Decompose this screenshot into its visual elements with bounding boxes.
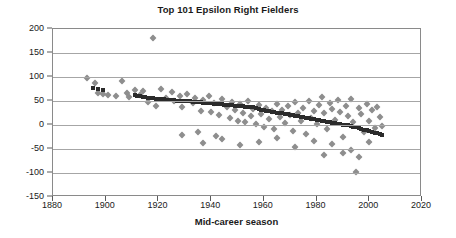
data-point-observed xyxy=(366,117,373,124)
y-axis-tick-label: 100 xyxy=(29,71,44,81)
data-point-observed xyxy=(205,92,212,99)
data-point-observed xyxy=(321,110,328,117)
data-point-observed xyxy=(358,110,365,117)
data-point-observed xyxy=(310,107,317,114)
data-point-observed xyxy=(289,127,296,134)
data-point-observed xyxy=(226,115,233,122)
gridline-y xyxy=(53,173,420,174)
plot-area xyxy=(52,28,421,196)
data-point-observed xyxy=(150,34,157,41)
x-axis-tick xyxy=(316,196,317,201)
x-axis-tick xyxy=(368,196,369,201)
x-axis-tick-label: 1920 xyxy=(147,200,167,210)
x-axis-tick-label: 2000 xyxy=(358,200,378,210)
data-point-observed xyxy=(273,135,280,142)
chart-root: Top 101 Epsilon Right Fielders 200150100… xyxy=(0,0,456,238)
y-axis-tick-label: 150 xyxy=(29,47,44,57)
data-point-observed xyxy=(255,138,262,145)
gridline-y xyxy=(53,101,420,102)
data-point-observed xyxy=(324,126,331,133)
data-point-observed xyxy=(200,140,207,147)
data-point-observed xyxy=(339,133,346,140)
x-axis-tick-label: 1960 xyxy=(253,200,273,210)
y-axis-tick-label: -100 xyxy=(26,167,44,177)
data-point-observed xyxy=(329,141,336,148)
gridline-y xyxy=(53,125,420,126)
x-axis-tick-label: 2020 xyxy=(411,200,431,210)
data-point-observed xyxy=(105,91,112,98)
x-axis-tick xyxy=(210,196,211,201)
data-point-observed xyxy=(84,75,91,82)
y-axis-tick-label: -50 xyxy=(31,143,44,153)
x-axis-tick xyxy=(157,196,158,201)
data-point-observed xyxy=(342,102,349,109)
data-point-observed xyxy=(300,105,307,112)
data-point-observed xyxy=(208,108,215,115)
data-point-observed xyxy=(316,101,323,108)
data-point-observed xyxy=(355,154,362,161)
data-point-observed xyxy=(168,89,175,96)
data-point-observed xyxy=(158,86,165,93)
x-axis-title: Mid-career season xyxy=(52,216,421,227)
x-axis-tick xyxy=(421,196,422,201)
x-axis-tick xyxy=(52,196,53,201)
data-point-observed xyxy=(118,77,125,84)
data-point-fitted xyxy=(380,133,384,137)
data-point-observed xyxy=(376,114,383,121)
data-point-observed xyxy=(152,102,159,109)
data-point-observed xyxy=(302,130,309,137)
data-point-observed xyxy=(247,113,254,120)
x-axis-tick xyxy=(263,196,264,201)
gridline-y xyxy=(53,149,420,150)
data-point-observed xyxy=(218,136,225,143)
x-axis-tick-label: 1900 xyxy=(95,200,115,210)
data-point-observed xyxy=(310,137,317,144)
data-point-observed xyxy=(318,94,325,101)
data-point-observed xyxy=(266,116,273,123)
data-point-observed xyxy=(179,131,186,138)
data-point-observed xyxy=(237,142,244,149)
data-point-observed xyxy=(339,149,346,156)
x-axis-tick-label: 1980 xyxy=(306,200,326,210)
x-axis-tick-label: 1940 xyxy=(200,200,220,210)
data-point-observed xyxy=(197,107,204,114)
y-axis-tick-label: 200 xyxy=(29,23,44,33)
data-point-observed xyxy=(292,99,299,106)
data-point-observed xyxy=(234,117,241,124)
x-axis-tick-label: 1880 xyxy=(42,200,62,210)
x-axis-tick xyxy=(105,196,106,201)
data-point-observed xyxy=(345,112,352,119)
gridline-y xyxy=(53,77,420,78)
data-point-observed xyxy=(184,91,191,98)
data-point-fitted xyxy=(96,87,100,91)
data-point-observed xyxy=(329,106,336,113)
data-point-observed xyxy=(179,104,186,111)
data-point-observed xyxy=(374,103,381,110)
data-point-observed xyxy=(271,125,278,132)
y-axis-tick-label: 50 xyxy=(34,95,44,105)
data-point-observed xyxy=(194,129,201,136)
gridline-y xyxy=(53,53,420,54)
data-point-observed xyxy=(366,139,373,146)
data-point-fitted xyxy=(91,86,95,90)
data-point-observed xyxy=(353,168,360,175)
data-point-observed xyxy=(239,109,246,116)
chart-title: Top 101 Epsilon Right Fielders xyxy=(0,4,456,15)
data-point-fitted xyxy=(101,88,105,92)
y-axis-tick-label: 0 xyxy=(39,119,44,129)
data-point-observed xyxy=(113,93,120,100)
data-point-observed xyxy=(321,151,328,158)
data-point-observed xyxy=(337,108,344,115)
data-point-observed xyxy=(216,112,223,119)
